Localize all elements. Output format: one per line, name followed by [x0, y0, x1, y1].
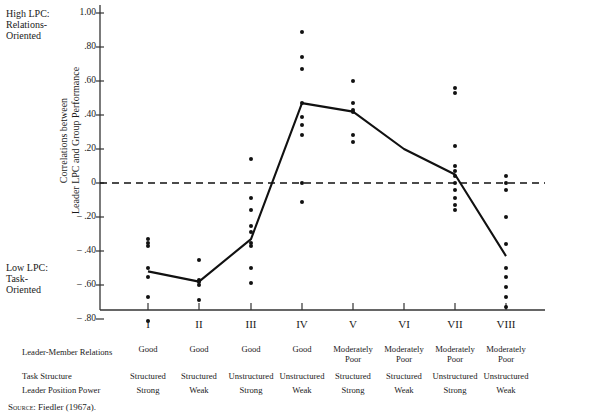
condition-cell: Strong: [121, 386, 175, 396]
data-point: [300, 200, 304, 204]
condition-cell: Strong: [428, 386, 482, 396]
octant-label-ii[interactable]: II: [174, 318, 224, 330]
condition-cell: Moderately Poor: [479, 345, 533, 365]
data-point: [146, 244, 150, 248]
data-point: [351, 79, 355, 83]
condition-cell: Structured: [326, 372, 380, 382]
data-point: [146, 266, 150, 270]
y-tick-label: .80: [70, 41, 96, 52]
condition-cell: Unstructured: [479, 372, 533, 382]
data-point: [146, 295, 150, 299]
data-point: [504, 275, 508, 279]
condition-cell: Moderately Poor: [326, 345, 380, 365]
data-point: [300, 30, 304, 34]
data-point: [453, 86, 457, 90]
y-tick-label: .40: [70, 109, 96, 120]
plot-svg: [100, 8, 545, 313]
condition-cell: Structured: [377, 372, 431, 382]
x-tick-marks: [148, 303, 506, 310]
low-lpc-corner-label: Low LPC: Task- Oriented: [6, 262, 48, 296]
data-point: [504, 295, 508, 299]
condition-cell: Good: [224, 345, 278, 355]
data-point: [504, 215, 508, 219]
data-point: [504, 266, 508, 270]
data-point: [300, 115, 304, 119]
condition-cell: Unstructured: [275, 372, 329, 382]
y-tick-label: – .20: [70, 211, 96, 222]
condition-cell: Strong: [326, 386, 380, 396]
condition-cell: Strong: [224, 386, 278, 396]
condition-row-label: Leader-Member Relations: [22, 348, 112, 358]
data-point: [453, 164, 457, 168]
condition-cell: Unstructured: [224, 372, 278, 382]
data-point: [249, 266, 253, 270]
condition-cell: Moderately Poor: [428, 345, 482, 365]
condition-cell: Structured: [121, 372, 175, 382]
y-tick-label: – .40: [70, 245, 96, 256]
data-point: [249, 244, 253, 248]
high-lpc-corner-label: High LPC: Relations- Oriented: [6, 8, 50, 42]
y-axis-title: Correlations between Leader LPC and Grou…: [58, 23, 81, 258]
median-correlation-line: [148, 103, 506, 282]
data-point: [197, 283, 201, 287]
data-point: [351, 110, 355, 114]
data-point: [504, 181, 508, 185]
condition-cell: Moderately Poor: [377, 345, 431, 365]
condition-cell: Weak: [275, 386, 329, 396]
y-tick-label: .20: [70, 143, 96, 154]
y-tick-label: 0: [70, 177, 96, 188]
condition-cell: Good: [275, 345, 329, 355]
octant-label-v[interactable]: V: [328, 318, 378, 330]
y-tick-label: .60: [70, 75, 96, 86]
data-point: [453, 188, 457, 192]
condition-cell: Weak: [479, 386, 533, 396]
data-point: [504, 285, 508, 289]
data-point: [453, 144, 457, 148]
data-point: [197, 258, 201, 262]
octant-label-vi[interactable]: VI: [379, 318, 429, 330]
octant-label-iv[interactable]: IV: [277, 318, 327, 330]
y-tick-label: – .60: [70, 279, 96, 290]
condition-cell: Good: [121, 345, 175, 355]
condition-cell: Good: [172, 345, 226, 355]
data-point: [453, 181, 457, 185]
octant-label-viii[interactable]: VIII: [481, 318, 531, 330]
data-point: [453, 91, 457, 95]
data-point: [249, 224, 253, 228]
data-point: [504, 188, 508, 192]
plot-area: [100, 8, 545, 313]
condition-row-label: Leader Position Power: [22, 386, 100, 396]
octant-label-iii[interactable]: III: [226, 318, 276, 330]
condition-cell: Weak: [172, 386, 226, 396]
y-tick-label: 1.00: [70, 7, 96, 18]
condition-cell: Unstructured: [428, 372, 482, 382]
octant-label-i[interactable]: I: [123, 318, 173, 330]
condition-cell: Structured: [172, 372, 226, 382]
fiedler-contingency-figure: High LPC: Relations- Oriented Low LPC: T…: [0, 0, 604, 420]
data-point: [300, 181, 304, 185]
condition-row-label: Task Structure: [22, 372, 72, 382]
octant-label-vii[interactable]: VII: [430, 318, 480, 330]
condition-cell: Weak: [377, 386, 431, 396]
data-point: [146, 275, 150, 279]
y-tick-label: – .80: [70, 313, 96, 324]
source-note: Source: Fiedler (1967a).: [8, 402, 96, 412]
